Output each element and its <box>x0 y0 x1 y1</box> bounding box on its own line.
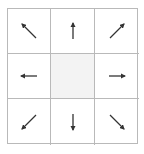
cell-right[interactable] <box>95 54 139 99</box>
cell-top[interactable] <box>51 9 95 54</box>
direction-grid <box>7 8 138 144</box>
arrow-down-icon <box>62 111 84 133</box>
arrow-down-left-icon <box>18 111 40 133</box>
arrow-down-right-icon <box>106 111 128 133</box>
arrow-up-icon <box>62 20 84 42</box>
cell-top-left[interactable] <box>8 9 51 54</box>
cell-bottom[interactable] <box>51 99 95 145</box>
cell-bottom-right[interactable] <box>95 99 139 145</box>
cell-bottom-left[interactable] <box>8 99 51 145</box>
arrow-left-icon <box>18 65 40 87</box>
cell-left[interactable] <box>8 54 51 99</box>
arrow-right-icon <box>106 65 128 87</box>
arrow-up-right-icon <box>106 20 128 42</box>
cell-center[interactable] <box>51 54 95 99</box>
cell-top-right[interactable] <box>95 9 139 54</box>
arrow-up-left-icon <box>18 20 40 42</box>
